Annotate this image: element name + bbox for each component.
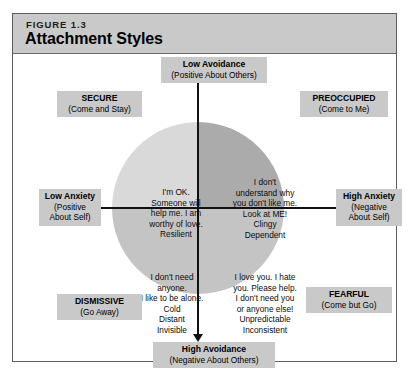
attachment-styles-figure: FIGURE 1.3 Attachment Styles I'm OK.Some…	[0, 0, 411, 376]
diagram-canvas: I'm OK.Someone willhelp me. I amworthy o…	[13, 55, 396, 361]
style-label-secure-motto: (Come and Stay)	[62, 104, 137, 115]
axis-label-low-anxiety-sub: (PositiveAbout Self)	[44, 202, 96, 223]
axis-label-high-avoidance-sub: (Negative About Others)	[158, 355, 270, 366]
fearful-description: I love you. I hateyou. Please help.I don…	[213, 272, 317, 336]
style-label-preoccupied-name: PREOCCUPIED	[305, 93, 383, 104]
style-label-secure-name: SECURE	[62, 93, 137, 104]
style-label-dismissive-name: DISMISSIVE	[62, 296, 137, 307]
style-label-preoccupied: PREOCCUPIED (Come to Me)	[300, 91, 388, 117]
figure-title: Attachment Styles	[25, 30, 163, 48]
figure-number: FIGURE 1.3	[26, 19, 87, 30]
style-label-fearful-motto: (Come but Go)	[311, 300, 387, 311]
style-label-fearful: FEARFUL (Come but Go)	[306, 287, 392, 313]
axis-label-high-anxiety-title: High Anxiety	[341, 191, 397, 202]
style-label-secure: SECURE (Come and Stay)	[57, 91, 142, 117]
style-label-dismissive-motto: (Go Away)	[62, 307, 137, 318]
style-label-dismissive: DISMISSIVE (Go Away)	[57, 294, 142, 320]
axis-label-low-avoidance-sub: (Positive About Others)	[166, 70, 262, 81]
style-label-preoccupied-motto: (Come to Me)	[305, 104, 383, 115]
axis-label-high-avoidance: High Avoidance (Negative About Others)	[153, 342, 275, 368]
axis-label-low-anxiety: Low Anxiety (PositiveAbout Self)	[39, 189, 101, 226]
axis-label-low-anxiety-title: Low Anxiety	[44, 191, 96, 202]
axis-label-high-anxiety: High Anxiety (NegativeAbout Self)	[336, 189, 402, 226]
figure-header: FIGURE 1.3 Attachment Styles	[13, 14, 396, 54]
axis-label-low-avoidance-title: Low Avoidance	[166, 59, 262, 70]
preoccupied-description: I don'tunderstand whyyou don't like me.L…	[213, 177, 317, 241]
axis-label-low-avoidance: Low Avoidance (Positive About Others)	[161, 57, 267, 83]
axis-label-high-anxiety-sub: (NegativeAbout Self)	[341, 202, 397, 223]
style-label-fearful-name: FEARFUL	[311, 289, 387, 300]
figure-frame: FIGURE 1.3 Attachment Styles I'm OK.Some…	[12, 13, 397, 362]
axis-label-high-avoidance-title: High Avoidance	[158, 344, 270, 355]
